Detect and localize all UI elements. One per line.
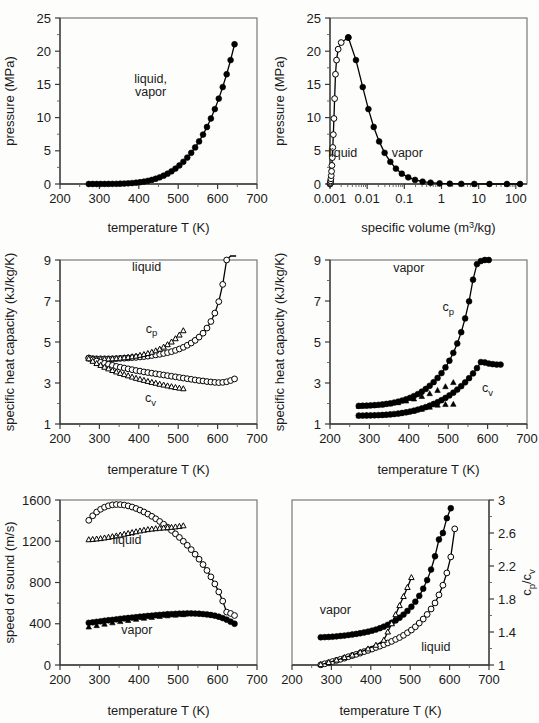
y-tick-label: 20 [307,44,321,59]
x-tick-label: 300 [89,191,111,206]
panel-e: 200300400500600700040080012001600liquidv… [0,482,269,723]
x-tick-label: 500 [167,672,189,687]
x-tick-label: 0.001 [314,191,347,206]
x-tick-label: 500 [167,431,189,446]
y-tick-label: 1600 [22,493,51,508]
x-tick-label: 200 [319,431,341,446]
x-tick-label: 400 [128,672,150,687]
x-tick-label: 700 [516,431,538,446]
x-tick-label: 400 [398,431,420,446]
data-curve [89,256,236,359]
series-filled-circle [356,257,492,409]
data-curve [359,260,489,406]
annotation-liquid,: liquid, [134,72,167,86]
y-tick-label: 9 [44,253,51,268]
x-tick-label: 300 [89,431,111,446]
annotation-vapor: vapor [121,623,152,637]
annotation-cv: cv [145,391,156,408]
series-filled-circle [318,505,454,640]
y-axis-title: pressure (MPa) [272,56,287,146]
y-tick-label: 5 [44,143,51,158]
annotation-liquid: liquid [112,533,141,547]
y-tick-label: 20 [37,44,51,59]
y-tick-label: 15 [37,77,51,92]
series-filled-circle [86,41,238,187]
x-tick-label: 300 [359,431,381,446]
y-axis-title: specific heat capacity (kJ/kg/K) [2,253,17,431]
x-tick-label: 400 [128,191,150,206]
annotation-liquid: liquid [328,146,357,160]
series-open-circle [327,35,351,187]
panel-c: 20030040050060070013579liquidcpcvtempera… [0,240,269,482]
x-tick-label: 700 [246,672,268,687]
y-tick-label: 5 [44,335,51,350]
series-filled-circle [345,35,523,187]
plot-frame [60,18,257,184]
y-tick-label: 1 [498,658,505,673]
plot-frame [60,500,257,665]
y-tick-label: 3 [314,376,321,391]
x-tick-label: 0.1 [395,191,413,206]
panel-a: 2003004005006007000510152025liquid,vapor… [0,0,269,240]
x-tick-label: 700 [246,191,268,206]
y-tick-label: 3 [498,493,505,508]
annotation-vapor: vapor [392,146,423,160]
x-axis-title: temperature T (K) [339,703,441,718]
annotation-vapor: vapor [320,603,351,617]
annotation-liquid: liquid [132,260,161,274]
panel-d: 20030040050060070013579vaporcpcvtemperat… [270,240,539,482]
y-tick-label: 5 [314,143,321,158]
y-tick-label: 0 [314,177,321,192]
data-curve [89,44,235,184]
x-tick-label: 400 [128,431,150,446]
x-tick-label: 500 [399,672,421,687]
x-tick-label: 300 [321,672,343,687]
y-tick-label: 0 [44,658,51,673]
annotation-vapor: vapor [135,85,166,99]
x-axis-title: temperature T (K) [377,462,479,477]
x-tick-label: 400 [360,672,382,687]
x-tick-label: 200 [49,672,71,687]
x-tick-label: 500 [437,431,459,446]
y-tick-label: 2.6 [498,526,516,541]
x-axis-title: temperature T (K) [107,220,209,235]
series-open-circle [86,502,238,619]
x-tick-label: 600 [207,191,229,206]
annotation-cv: cv [482,381,493,398]
y-tick-label: 2.2 [498,559,516,574]
y-tick-label: 0 [44,177,51,192]
annotation-liquid: liquid [421,640,450,654]
y-axis-title: cp/cv [519,569,537,596]
x-tick-label: 500 [167,191,189,206]
x-tick-label: 100 [505,191,527,206]
annotation-cp: cp [442,300,454,317]
x-tick-label: 700 [246,431,268,446]
y-tick-label: 1 [314,417,321,432]
x-tick-label: 200 [49,191,71,206]
y-tick-label: 25 [37,11,51,26]
plot-frame [60,260,257,424]
y-axis-title: pressure (MPa) [2,56,17,146]
y-tick-label: 7 [314,294,321,309]
y-tick-label: 1.4 [498,625,516,640]
x-tick-label: 0.01 [355,191,380,206]
y-tick-label: 3 [44,376,51,391]
plot-frame [330,260,527,424]
y-tick-label: 10 [307,110,321,125]
y-tick-label: 15 [307,77,321,92]
x-tick-label: 600 [439,672,461,687]
x-tick-label: 700 [478,672,500,687]
x-axis-title: temperature T (K) [107,703,209,718]
x-tick-label: 200 [49,431,71,446]
panel-b: 0.0010.010.11101000510152025liquidvapors… [270,0,539,240]
y-axis-title: specific heat capacity (kJ/kg/K) [272,253,287,431]
annotation-cp: cp [146,322,158,339]
y-tick-label: 9 [314,253,321,268]
x-tick-label: 600 [207,672,229,687]
y-tick-label: 1200 [22,534,51,549]
figure-container: 2003004005006007000510152025liquid,vapor… [0,0,539,723]
y-axis-title: speed of sound (m/s) [2,521,17,643]
data-curve [348,38,520,184]
y-tick-label: 800 [29,575,51,590]
x-tick-label: 600 [207,431,229,446]
